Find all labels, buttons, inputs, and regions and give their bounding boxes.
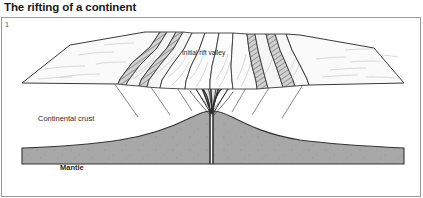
label-mantle: Mantle: [60, 163, 84, 172]
figure-title: The rifting of a continent: [4, 1, 136, 13]
block-diagram-canvas: Initial rift valley Continental crust Ma…: [0, 17, 423, 198]
label-initial-rift-valley: Initial rift valley: [182, 49, 226, 57]
figure-container: The rifting of a continent 1: [0, 0, 423, 198]
block-diagram-svg: Initial rift valley Continental crust Ma…: [0, 17, 423, 198]
label-continental-crust: Continental crust: [38, 114, 95, 123]
